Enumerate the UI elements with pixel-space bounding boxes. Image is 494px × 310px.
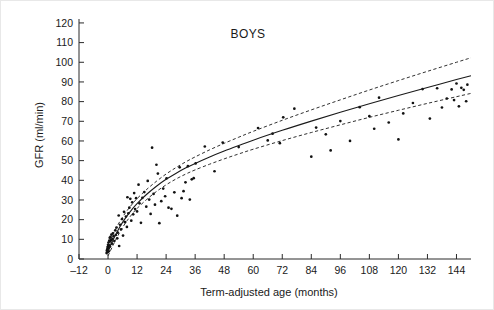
data-point <box>130 219 133 222</box>
data-point <box>158 222 161 225</box>
data-point <box>149 213 152 216</box>
data-point <box>397 138 400 141</box>
figure-container: BOYS 0102030405060708090100110120–120122… <box>0 0 494 310</box>
x-axis-label: Term-adjusted age (months) <box>79 286 459 298</box>
x-tick-label: 60 <box>247 264 259 276</box>
data-point <box>349 140 352 143</box>
y-tick-label: 20 <box>61 213 73 225</box>
data-point <box>126 226 129 229</box>
data-series-layer <box>105 58 471 256</box>
data-point <box>146 180 149 183</box>
data-point <box>170 207 173 210</box>
x-tick-label: 120 <box>390 264 408 276</box>
data-point <box>131 201 134 204</box>
data-point <box>293 107 296 110</box>
y-axis-label: GFR (ml/min) <box>33 65 45 205</box>
x-tick-label: 108 <box>361 264 379 276</box>
data-point <box>126 196 129 199</box>
y-tick-label: 120 <box>55 17 73 29</box>
data-point <box>329 149 332 152</box>
data-point <box>133 192 136 195</box>
data-point <box>140 221 143 224</box>
y-tick-label: 50 <box>61 154 73 166</box>
data-point <box>282 116 285 119</box>
data-point <box>137 183 140 186</box>
lower-confidence-band <box>108 93 471 255</box>
data-point <box>188 198 191 201</box>
data-point <box>429 117 432 120</box>
data-point <box>118 245 121 248</box>
data-point <box>266 139 269 142</box>
y-tick-label: 0 <box>67 253 73 265</box>
data-point <box>378 96 381 99</box>
data-point <box>122 234 125 237</box>
data-point <box>154 203 157 206</box>
y-tick-label: 110 <box>56 36 73 48</box>
data-point <box>162 187 165 190</box>
data-point <box>466 83 469 86</box>
y-tick-label: 100 <box>55 56 73 68</box>
data-point <box>203 145 206 148</box>
upper-confidence-band <box>108 58 471 245</box>
data-point <box>453 99 456 102</box>
fitted-curve <box>108 76 471 251</box>
x-tick-label: 72 <box>276 264 288 276</box>
y-tick-label: 90 <box>61 76 73 88</box>
data-point <box>462 88 465 91</box>
data-point <box>148 198 151 201</box>
data-point <box>465 100 468 103</box>
data-point <box>157 172 160 175</box>
x-tick-label: 24 <box>160 264 172 276</box>
x-tick-label: –12 <box>70 264 88 276</box>
x-tick-label: 48 <box>218 264 230 276</box>
data-point <box>145 205 148 208</box>
data-point <box>441 106 444 109</box>
x-tick-label: 84 <box>305 264 317 276</box>
data-point <box>117 214 120 217</box>
data-point <box>460 87 463 90</box>
y-tick-label: 60 <box>61 135 73 147</box>
y-tick-label: 10 <box>61 233 73 245</box>
data-point <box>310 155 313 158</box>
y-tick-label: 80 <box>61 95 73 107</box>
data-point <box>339 120 342 123</box>
data-point <box>402 112 405 115</box>
y-tick-label: 70 <box>61 115 73 127</box>
data-point <box>135 197 138 200</box>
data-point <box>134 208 137 211</box>
chart-plot-area: 0102030405060708090100110120–12012243648… <box>1 1 494 310</box>
data-point <box>132 213 135 216</box>
x-tick-label: 96 <box>334 264 346 276</box>
data-point <box>180 197 183 200</box>
data-point <box>450 88 453 91</box>
x-tick-label: 144 <box>448 264 466 276</box>
data-point <box>182 190 185 193</box>
data-point <box>167 206 170 209</box>
data-point <box>315 126 318 129</box>
data-point <box>176 214 179 217</box>
data-point <box>184 181 187 184</box>
data-point <box>436 87 439 90</box>
data-point <box>129 197 132 200</box>
data-point <box>324 133 327 136</box>
y-tick-label: 40 <box>61 174 73 186</box>
data-point <box>387 121 390 124</box>
x-tick-label: 12 <box>131 264 143 276</box>
data-point <box>373 127 376 130</box>
data-point <box>412 102 415 105</box>
data-point <box>136 210 139 213</box>
data-point <box>213 170 216 173</box>
data-point <box>458 105 461 108</box>
x-tick-label: 36 <box>189 264 201 276</box>
data-point <box>455 82 458 85</box>
data-point <box>278 142 281 145</box>
data-point <box>164 195 167 198</box>
data-point <box>173 191 176 194</box>
x-tick-label: 0 <box>105 264 111 276</box>
y-tick-label: 30 <box>61 194 73 206</box>
data-point <box>192 177 195 180</box>
data-point <box>160 200 163 203</box>
scatter-points <box>105 82 468 254</box>
data-point <box>151 146 154 149</box>
data-point <box>123 210 126 213</box>
